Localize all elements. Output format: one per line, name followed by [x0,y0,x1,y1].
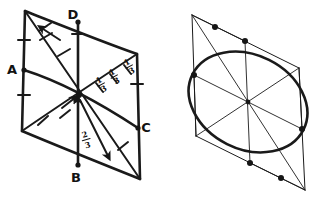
tick-lower-right-diag [118,142,128,150]
figure-canvas: D A C B 1 3 1 3 1 3 2 [0,0,313,201]
construction-corner-chord-right [299,68,302,129]
edge-top-left-to-top-right [25,11,137,54]
node-dot-A [21,67,26,72]
construction-corner-chord-left [194,75,196,136]
tangent-dot-lower-right [278,175,284,181]
node-dot-B [75,162,80,167]
tick-lower-left-diag-2 [60,110,70,118]
node-dot-C [135,125,140,130]
left-panel-group: D A C B 1 3 1 3 1 3 2 [7,7,151,185]
vertex-label-C: C [141,120,151,135]
edge-bottom-right-to-bottom-left [22,131,140,179]
center-dot [246,100,251,105]
node-dot-centroid [76,92,82,98]
inscribed-ellipse [172,32,313,171]
fraction-denominator: 3 [127,65,137,77]
fraction-numerator: 2 [81,129,89,140]
tangent-dot-top [242,38,248,44]
right-tangent-dots [191,24,305,181]
geometry-figure-root: D A C B 1 3 1 3 1 3 2 [0,0,313,201]
tangent-dot-left [191,72,197,78]
tangent-dot-bottom [247,160,253,166]
median-A-to-C [24,70,138,128]
edge-top-right-to-bottom-right [137,54,140,179]
tangent-dot-right [299,126,305,132]
vertex-label-B: B [71,170,81,185]
vertex-label-D: D [68,7,79,22]
fraction-denominator: 3 [112,75,122,87]
tick-mid-left-diag [58,49,70,56]
fraction-denominator: 3 [99,83,109,95]
tangent-dot-upper-left [212,24,218,30]
fraction-denominator: 3 [84,139,93,150]
vertex-label-A: A [7,62,17,77]
fraction-label-two-thirds: 2 3 [79,128,92,150]
right-panel-group [172,15,313,190]
